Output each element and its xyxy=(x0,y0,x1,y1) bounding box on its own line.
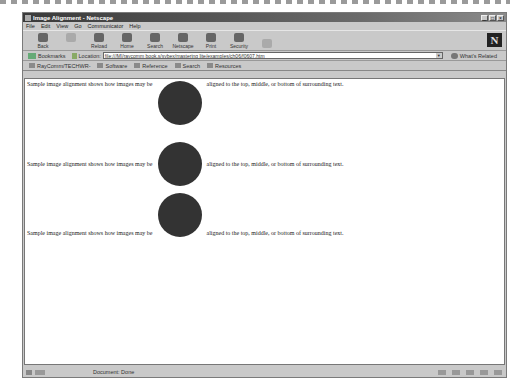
back-icon xyxy=(38,33,48,42)
discussion-icon[interactable] xyxy=(466,370,474,375)
netscape-logo[interactable]: N xyxy=(487,33,502,47)
url-input[interactable]: file:///M|/raycomm book.s/sybex/masterin… xyxy=(103,52,443,59)
browser-window: Image Alignment - Netscape _ □ × File Ed… xyxy=(22,12,507,378)
bookmarks-button[interactable]: Bookmarks xyxy=(38,53,66,59)
personal-item-software[interactable]: Software xyxy=(97,63,127,69)
print-button[interactable]: Print xyxy=(197,33,225,50)
personal-item-reference[interactable]: Reference xyxy=(134,63,167,69)
bookmarks-icon xyxy=(28,53,36,59)
row-align-middle: Sample image alignment shows how images … xyxy=(27,142,343,186)
home-icon xyxy=(122,33,132,42)
location-icon xyxy=(72,53,77,59)
folder-icon xyxy=(175,63,181,68)
location-label: Location: xyxy=(79,53,101,59)
bookmark-icon xyxy=(29,63,35,68)
navigation-toolbar: Back Forward Reload Home Search Netscape… xyxy=(23,30,506,51)
personal-item-raycomm[interactable]: RayComm/TECHWR- xyxy=(29,63,90,69)
stop-button[interactable] xyxy=(253,39,281,50)
menu-help[interactable]: Help xyxy=(129,23,140,29)
maximize-button[interactable]: □ xyxy=(489,15,496,21)
window-title: Image Alignment - Netscape xyxy=(33,15,481,21)
circle-image xyxy=(158,142,202,186)
forward-button[interactable]: Forward xyxy=(57,33,85,50)
edit-icon[interactable] xyxy=(494,370,502,375)
component-bar xyxy=(438,370,502,375)
print-icon xyxy=(206,33,216,42)
menu-bar: File Edit View Go Communicator Help xyxy=(23,22,506,30)
page-edge-dashes xyxy=(0,0,510,4)
page-content: Sample image alignment shows how images … xyxy=(24,78,505,365)
connection-icon xyxy=(35,370,45,375)
row-align-top: Sample image alignment shows how images … xyxy=(27,81,343,125)
home-button[interactable]: Home xyxy=(113,33,141,50)
composer-icon[interactable] xyxy=(480,370,488,375)
menu-file[interactable]: File xyxy=(26,23,35,29)
menu-go[interactable]: Go xyxy=(74,23,81,29)
whats-related-button[interactable]: What's Related xyxy=(451,53,497,59)
personal-toolbar: RayComm/TECHWR- Software Reference Searc… xyxy=(23,61,506,71)
close-button[interactable]: × xyxy=(497,15,504,21)
location-bar: Bookmarks Location: file:///M|/raycomm b… xyxy=(23,51,506,61)
security-button[interactable]: Security xyxy=(225,33,253,50)
personal-item-resources[interactable]: Resources xyxy=(207,63,241,69)
netscape-button[interactable]: Netscape xyxy=(169,33,197,50)
folder-icon xyxy=(207,63,213,68)
row-align-bottom: Sample image alignment shows how images … xyxy=(27,193,343,237)
back-button[interactable]: Back xyxy=(29,33,57,50)
forward-icon xyxy=(66,33,76,42)
minimize-button[interactable]: _ xyxy=(481,15,488,21)
security-lock-icon[interactable] xyxy=(26,370,32,375)
personal-item-search[interactable]: Search xyxy=(175,63,200,69)
url-dropdown-button[interactable]: ▼ xyxy=(436,53,442,58)
security-icon xyxy=(234,33,244,42)
reload-button[interactable]: Reload xyxy=(85,33,113,50)
reload-icon xyxy=(94,33,104,42)
menu-view[interactable]: View xyxy=(56,23,68,29)
navigator-icon[interactable] xyxy=(438,370,446,375)
status-bar: Document: Done xyxy=(23,367,506,377)
search-icon xyxy=(150,33,160,42)
circle-image xyxy=(158,193,202,237)
stop-icon xyxy=(262,39,272,48)
mail-icon[interactable] xyxy=(452,370,460,375)
menu-edit[interactable]: Edit xyxy=(41,23,50,29)
status-text: Document: Done xyxy=(93,369,438,375)
menu-communicator[interactable]: Communicator xyxy=(88,23,124,29)
search-button[interactable]: Search xyxy=(141,33,169,50)
folder-icon xyxy=(97,63,103,68)
folder-icon xyxy=(134,63,140,68)
circle-image xyxy=(158,81,202,125)
netscape-window-icon xyxy=(25,15,31,21)
netscape-icon xyxy=(178,33,188,42)
whats-related-icon xyxy=(451,53,458,59)
title-bar: Image Alignment - Netscape _ □ × xyxy=(23,13,506,22)
